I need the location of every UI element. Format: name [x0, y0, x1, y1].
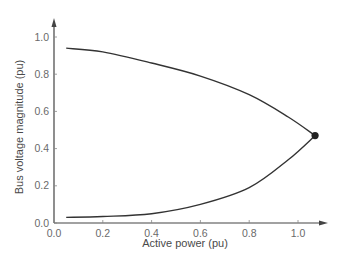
y-axis-arrow-icon	[52, 18, 57, 27]
x-tick-label: 1.0	[291, 227, 306, 239]
x-tick-label: 0.8	[242, 227, 257, 239]
nose-point-marker	[311, 132, 318, 139]
y-tick-label: 0.8	[34, 68, 49, 80]
y-axis	[52, 18, 57, 223]
y-axis-title: Bus voltage magnitude (pu)	[13, 60, 25, 195]
x-axis-arrow-icon	[319, 221, 328, 226]
x-axis	[54, 221, 328, 226]
y-tick-label: 0.6	[34, 105, 49, 117]
x-axis-title: Active power (pu)	[142, 237, 228, 249]
pv-curve-chart: 0.00.20.40.60.81.0 0.00.20.40.60.81.0 Ac…	[0, 0, 341, 267]
y-tick-label: 0.4	[34, 142, 49, 154]
y-tick-label: 1.0	[34, 31, 49, 43]
upper-branch-curve	[66, 48, 315, 135]
x-tick-label: 0.2	[95, 227, 110, 239]
lower-branch-curve	[66, 136, 315, 218]
y-tick-label: 0.2	[34, 179, 49, 191]
x-tick-label: 0.0	[47, 227, 62, 239]
